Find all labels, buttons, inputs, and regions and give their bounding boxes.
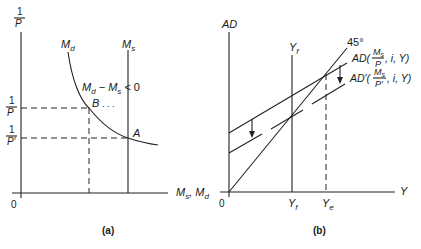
- excess-supply-label: Md − Ms < 0: [82, 81, 140, 96]
- ad-line: [229, 63, 347, 133]
- adprime-line-seg1: [229, 134, 262, 153]
- deg45-label: 45°: [347, 36, 364, 48]
- svg-text:AD(: AD(: [351, 52, 372, 64]
- adprime-curve-label: AD′( Ms P′ , i, Y): [349, 67, 411, 89]
- adprime-line-seg3: [312, 84, 345, 104]
- md-curve-label: Md: [61, 38, 75, 53]
- point-a-label: A: [132, 127, 140, 139]
- panel-a-x-label: Ms, Md: [176, 186, 209, 201]
- panel-a: 1 P 1 P 1 P′ Md Ms Md − Ms < 0 B . . . A…: [6, 6, 209, 236]
- economics-figure: 1 P 1 P 1 P′ Md Ms Md − Ms < 0 B . . . A…: [0, 0, 421, 249]
- ye-tick-label: Ye: [322, 197, 334, 212]
- point-b-label: B: [92, 97, 99, 109]
- yf-top-label: Yf: [289, 41, 299, 56]
- panel-a-origin: 0: [11, 199, 17, 210]
- ms-line-label: Ms: [122, 38, 135, 53]
- panel-b-x-label: Y: [400, 185, 408, 197]
- svg-text:, i, Y): , i, Y): [387, 72, 411, 84]
- panel-b-caption: (b): [313, 225, 326, 236]
- shift-arrow-right-head: [337, 77, 343, 84]
- panel-a-tick-2-den: P′: [7, 136, 17, 147]
- shift-arrow-left-head: [249, 131, 255, 138]
- panel-a-tick-2-num: 1: [9, 124, 15, 135]
- svg-text:AD′(: AD′(: [349, 72, 372, 84]
- panel-b-origin: 0: [219, 198, 225, 209]
- ad-curve-label: AD( Ms P , i, Y): [351, 47, 409, 69]
- panel-b-y-label: AD: [221, 18, 237, 30]
- panel-b: AD Y 0 Yf 45° AD( Ms P , i, Y): [219, 18, 411, 236]
- svg-text:Ms: Ms: [373, 47, 385, 58]
- panel-a-caption: (a): [102, 225, 114, 236]
- adprime-line-seg2: [271, 110, 303, 129]
- point-b-dots: . . .: [102, 99, 115, 109]
- yf-tick-label: Yf: [288, 197, 298, 212]
- svg-text:Ms: Ms: [374, 67, 386, 78]
- svg-text:, i, Y): , i, Y): [385, 52, 409, 64]
- svg-text:P′: P′: [375, 79, 383, 89]
- panel-a-tick-1-num: 1: [9, 95, 15, 106]
- panel-a-tick-1-den: P: [7, 107, 14, 118]
- deg45-line: [229, 48, 347, 192]
- panel-a-y-label-den: P: [15, 18, 22, 29]
- panel-a-y-label-num: 1: [17, 6, 23, 17]
